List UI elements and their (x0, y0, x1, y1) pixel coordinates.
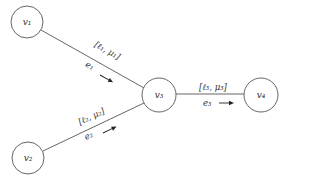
edge-name-e1: e₁ (84, 59, 96, 72)
edge-e2: [ℓ₂, μ₂] e₂ (43, 103, 144, 151)
edge-e3: [ℓ₃, μ₃] e₃ (176, 82, 244, 108)
node-label-v1: v₁ (23, 17, 32, 27)
node-v3: v₃ (142, 78, 176, 112)
node-label-v4: v₄ (257, 90, 266, 100)
edge-line-e1 (41, 30, 144, 88)
node-v4: v₄ (244, 78, 278, 112)
edge-param-e2: [ℓ₂, μ₂] (77, 106, 107, 127)
arrow-icon-e1 (99, 73, 114, 84)
arrow-icon-e2 (102, 125, 117, 135)
arrow-icon-e3 (219, 101, 234, 105)
edge-name-e3: e₃ (203, 98, 212, 108)
node-label-v2: v₂ (24, 153, 33, 163)
edge-param-e3: [ℓ₃, μ₃] (199, 82, 228, 92)
node-label-v3: v₃ (155, 90, 164, 100)
edge-e1: [ℓ₁, μ₁] e₁ (41, 30, 144, 88)
edge-param-e1: [ℓ₁, μ₁] (93, 39, 123, 62)
graph-diagram: [ℓ₁, μ₁] e₁ [ℓ₂, μ₂] e₂ [ℓ₃, μ₃] e₃ v₁ v… (0, 0, 321, 184)
node-v1: v₁ (11, 6, 43, 38)
node-v2: v₂ (12, 142, 44, 174)
edge-name-e2: e₂ (83, 129, 95, 142)
